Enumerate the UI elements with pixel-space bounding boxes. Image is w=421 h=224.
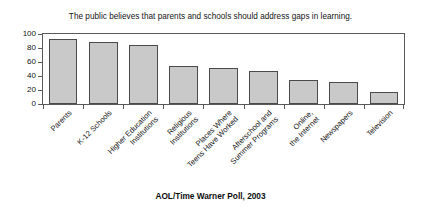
y-axis: 020406080100 xyxy=(0,29,36,109)
x-axis-labels: ParentsK-12 SchoolsHigher EducationInsti… xyxy=(0,105,421,183)
bar xyxy=(289,80,318,104)
x-axis-label-line: Television xyxy=(364,108,394,138)
y-tick-label: 40 xyxy=(0,72,36,80)
bar xyxy=(49,39,78,104)
chart-title: The public believes that parents and sch… xyxy=(0,11,421,22)
y-tick-label: 60 xyxy=(0,58,36,66)
bar xyxy=(329,82,358,104)
x-axis-label-line: K-12 Schools xyxy=(75,108,113,146)
y-tick-label: 80 xyxy=(0,44,36,52)
x-axis-label-line: Newspapers xyxy=(318,108,354,144)
bar xyxy=(209,68,238,104)
bar xyxy=(370,92,399,104)
bar xyxy=(169,66,198,104)
y-tick-label: 20 xyxy=(0,86,36,94)
bar xyxy=(89,42,118,104)
bar-chart-figure: The public believes that parents and sch… xyxy=(0,0,421,224)
bar xyxy=(129,45,158,104)
source-caption: AOL/Time Warner Poll, 2003 xyxy=(0,191,421,202)
y-tick-label: 100 xyxy=(0,30,36,38)
x-axis-label-line: Parents xyxy=(49,108,74,133)
bars-group xyxy=(43,34,404,104)
bar xyxy=(249,71,278,104)
